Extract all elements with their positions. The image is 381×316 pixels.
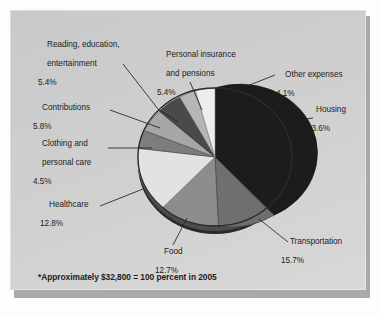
callout-transportation: Transportation 15.7% <box>281 227 342 285</box>
callout-personal-insurance-and-pensions: Personal insurance and pensions 5.4% <box>157 40 236 117</box>
leader-line-health <box>100 189 143 206</box>
callout-line-1: Healthcare <box>49 200 88 209</box>
callout-line-1: Clothing and <box>42 139 88 148</box>
callout-percent: 5.4% <box>157 88 236 98</box>
callout-line-1: Personal insurance <box>166 50 236 59</box>
chart-footnote: *Approximately $32,800 = 100 percent in … <box>38 272 217 282</box>
callout-line-1: Other expenses <box>285 70 343 79</box>
callout-healthcare: Healthcare 12.8% <box>40 190 88 248</box>
callout-housing: Housing 33.6% <box>307 95 346 153</box>
callout-food: Food 12.7% <box>155 237 183 295</box>
callout-percent: 12.8% <box>40 219 88 229</box>
callout-line-1: Transportation <box>290 237 342 246</box>
callout-line-1: Reading, education, <box>47 40 119 49</box>
callout-line-2: personal care <box>42 158 91 167</box>
callout-percent: 33.6% <box>307 124 346 134</box>
callout-percent: 15.7% <box>281 256 342 266</box>
callout-line-1: Food <box>164 247 183 256</box>
callout-line-2: and pensions <box>166 69 214 78</box>
callout-percent: 5.4% <box>38 78 119 88</box>
callout-line-2: entertainment <box>47 59 97 68</box>
callout-percent: 4.5% <box>33 177 91 187</box>
callout-line-1: Housing <box>316 105 346 114</box>
figure-container: Reading, education, entertainment 5.4% P… <box>0 0 381 316</box>
callout-line-1: Contributions <box>42 103 90 112</box>
